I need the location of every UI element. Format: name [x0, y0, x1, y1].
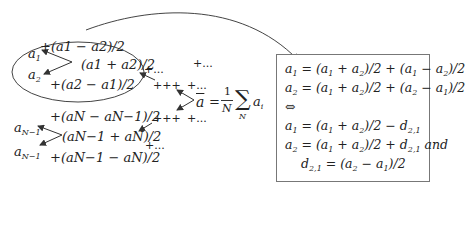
- box-eq-1: a1 = (a1 + a2)/2 + (a1 − a2)/2: [285, 63, 465, 78]
- equivalence-icon: ⇔: [285, 101, 295, 114]
- term-aN-minus-aN1: +(aN − aN−1)/2: [50, 110, 160, 123]
- plus-term: +++: [153, 113, 181, 124]
- label-aN-1-top: aN−1: [14, 121, 41, 137]
- box-eq-5: d2,1 = (a2 − a1)/2: [301, 158, 406, 173]
- box-eq-2: a2 = (a1 + a2)/2 + (a2 − a1)/2: [285, 82, 465, 97]
- ellipsis-term: +...: [145, 140, 165, 151]
- ellipsis-term: +...: [193, 58, 213, 69]
- box-eq-4: a2 = (a1 + a2)/2 + d2,1 and: [285, 139, 448, 154]
- label-aN-1-bottom: aN−1: [14, 145, 41, 161]
- sum-icon: ∑: [235, 88, 251, 110]
- label-a2: a2: [28, 68, 41, 84]
- label-a1: a1: [28, 47, 41, 63]
- term-a1-minus-a2: +(a1 − a2)/2: [40, 40, 125, 53]
- term-a2-minus-a1: +(a2 − a1)/2: [50, 78, 135, 91]
- ellipsis-term: +...: [144, 64, 164, 75]
- mean-formula: a = 1 N ∑ N ai: [196, 86, 276, 126]
- equation-box: a1 = (a1 + a2)/2 + (a1 − a2)/2 a2 = (a1 …: [276, 54, 430, 182]
- box-eq-3: a1 = (a1 + a2)/2 − d2,1: [285, 120, 421, 135]
- plus-term: +++: [153, 80, 181, 91]
- term-aN1-minus-aN: +(aN−1 − aN)/2: [50, 151, 160, 164]
